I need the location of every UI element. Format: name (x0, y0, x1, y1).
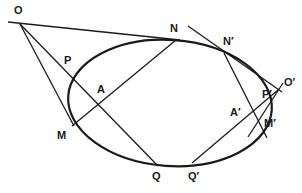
conic-diagram: O N P A M Q N′ O′ P′ A′ M′ Q′ (0, 0, 302, 193)
label-Q-prime: Q′ (188, 170, 200, 182)
label-A-prime: A′ (230, 106, 241, 118)
label-O: O (14, 4, 23, 16)
secant-line-OQ (20, 24, 158, 166)
label-Q: Q (152, 170, 161, 182)
label-M-prime: M′ (264, 117, 276, 129)
label-N-prime: N′ (223, 35, 234, 47)
label-P: P (64, 54, 71, 66)
chord-line-MN (72, 40, 176, 126)
label-P-prime: P′ (262, 88, 272, 100)
label-A: A (97, 83, 105, 95)
label-M: M (57, 129, 66, 141)
ellipse-curve (64, 33, 276, 173)
tangent-line-O'N' (188, 26, 282, 92)
label-O-prime: O′ (284, 76, 296, 88)
tangent-line-OM (20, 24, 74, 126)
label-N: N (170, 22, 178, 34)
